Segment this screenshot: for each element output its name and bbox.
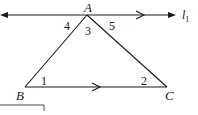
angle-3-label: 3 [85, 24, 91, 38]
angle-5-label: 5 [109, 19, 115, 33]
caption-box-edge [0, 105, 44, 111]
side-ac [87, 15, 167, 87]
right-arrowhead-icon [168, 12, 176, 18]
line-l1-label: l1 [182, 8, 189, 24]
angle-2-label: 2 [141, 74, 147, 88]
vertex-b-label: B [16, 88, 24, 103]
angle-1-label: 1 [41, 74, 47, 88]
angle-4-label: 4 [64, 19, 70, 33]
left-arrowhead-icon [0, 12, 8, 18]
side-ab [25, 15, 87, 87]
triangle-diagram: A B C l1 1 2 3 4 5 [0, 0, 198, 115]
vertex-c-label: C [165, 88, 174, 103]
vertex-a-label: A [83, 0, 92, 15]
